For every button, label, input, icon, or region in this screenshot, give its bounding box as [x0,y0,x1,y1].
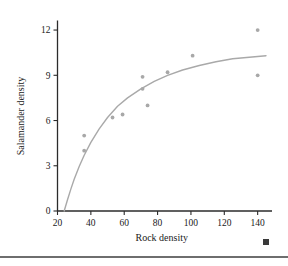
x-tick-label-100: 100 [184,218,199,228]
x-tick-label-140: 140 [251,218,266,228]
footer-divider [0,256,288,258]
y-tick-label-12: 12 [41,25,51,35]
data-point-8 [191,54,195,58]
data-point-5 [141,87,145,91]
y-tick-label-3: 3 [46,161,51,171]
data-point-6 [146,104,150,108]
data-point-9 [256,28,260,32]
data-point-3 [121,113,125,117]
x-tick-label-20: 20 [53,218,63,228]
x-tick-label-80: 80 [153,218,163,228]
data-point-2 [111,116,115,120]
fitted-curve [64,56,266,211]
x-tick-label-120: 120 [217,218,232,228]
x-tick-label-60: 60 [119,218,129,228]
y-tick-label-6: 6 [46,116,51,126]
data-point-0 [82,134,86,138]
data-point-1 [82,149,86,153]
chart-figure: 03691220406080100120140Rock densitySalam… [0,0,288,266]
data-point-4 [141,75,145,79]
y-axis-title: Salamander density [15,77,26,156]
data-point-7 [166,70,170,74]
scatter-plot-canvas: 03691220406080100120140Rock densitySalam… [0,0,288,266]
y-tick-label-9: 9 [46,71,51,81]
data-point-10 [256,73,260,77]
y-tick-label-0: 0 [46,206,51,216]
page-corner-marker [263,239,269,245]
x-axis-title: Rock density [136,232,189,243]
x-tick-label-40: 40 [86,218,96,228]
